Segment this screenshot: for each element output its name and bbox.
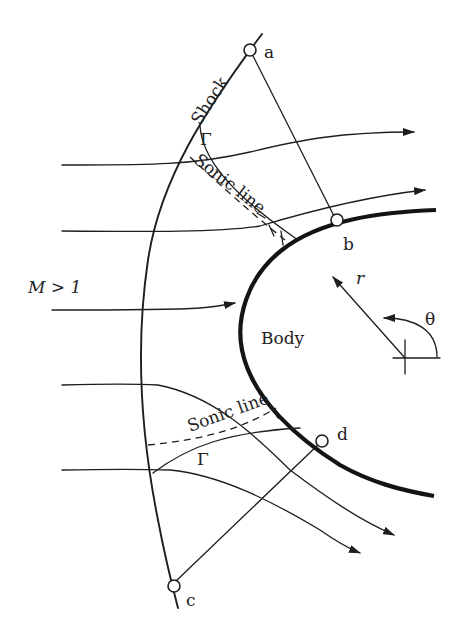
label-point-a: a bbox=[264, 42, 274, 62]
label-freestream-mach: M > 1 bbox=[27, 277, 81, 297]
point-c bbox=[168, 580, 180, 592]
label-sonic-line-upper: Sonic line bbox=[191, 149, 270, 217]
line-a-b bbox=[250, 50, 335, 218]
label-shock: Shock bbox=[187, 73, 233, 129]
blunt-body-flow-diagram: a b c d Shock Sonic line Sonic line Γ Γ … bbox=[0, 0, 466, 642]
label-point-d: d bbox=[337, 424, 348, 444]
streamline-5 bbox=[62, 469, 360, 553]
label-sonic-line-lower: Sonic line bbox=[185, 388, 272, 436]
label-gamma-upper: Γ bbox=[200, 129, 212, 149]
label-point-b: b bbox=[343, 234, 354, 254]
label-gamma-lower: Γ bbox=[197, 449, 209, 469]
point-d bbox=[316, 435, 328, 447]
label-body: Body bbox=[261, 328, 305, 348]
point-b bbox=[331, 214, 343, 226]
label-point-c: c bbox=[186, 590, 196, 610]
point-a bbox=[244, 44, 256, 56]
characteristic-gamma-lower bbox=[153, 428, 300, 473]
r-axis-arrow bbox=[333, 277, 405, 358]
coordinate-origin-cross bbox=[393, 340, 440, 374]
label-theta: θ bbox=[425, 309, 435, 329]
label-r: r bbox=[356, 268, 365, 288]
sonic-line-upper-ticks bbox=[257, 213, 283, 245]
body-contour bbox=[240, 210, 436, 496]
streamline-1 bbox=[62, 132, 414, 165]
